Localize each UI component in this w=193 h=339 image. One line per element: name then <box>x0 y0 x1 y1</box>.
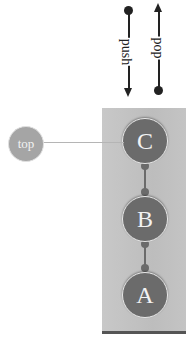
stack-node-b: B <box>122 196 168 242</box>
pop-label: pop <box>150 37 166 60</box>
top-pointer: top <box>8 126 44 162</box>
push-label: push <box>118 38 134 66</box>
stack-node-a: A <box>122 272 168 318</box>
link-dot <box>141 188 149 196</box>
stack-node-c: C <box>122 118 168 164</box>
top-pointer-line <box>42 142 124 143</box>
link-dot <box>141 264 149 272</box>
pop-end-dot <box>154 86 163 95</box>
push-arrow-icon <box>124 88 132 97</box>
